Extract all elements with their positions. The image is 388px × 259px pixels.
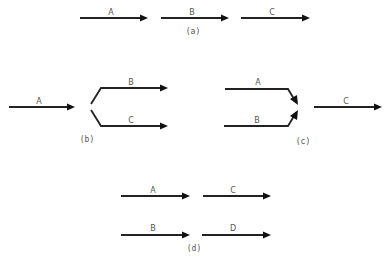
label-a-C: C bbox=[269, 8, 275, 17]
label-d-B: B bbox=[150, 224, 156, 233]
label-c-B: B bbox=[254, 116, 260, 125]
arrow-d-D: D bbox=[202, 224, 271, 239]
panel-a: A B C (a) bbox=[80, 8, 310, 36]
label-a-B: B bbox=[189, 8, 195, 17]
arrow-d-A: A bbox=[121, 186, 190, 200]
label-a-A: A bbox=[108, 8, 114, 17]
label-c-A: A bbox=[255, 78, 261, 87]
arrow-a-A: A bbox=[80, 8, 148, 22]
arrow-d-B: B bbox=[121, 224, 190, 239]
label-c-C: C bbox=[343, 97, 349, 106]
label-d-A: A bbox=[150, 186, 156, 195]
caption-b: (b) bbox=[80, 135, 94, 144]
caption-a: (a) bbox=[186, 27, 200, 36]
arrow-a-B: B bbox=[161, 8, 229, 22]
arrow-c-A: A bbox=[225, 78, 298, 105]
label-d-D: D bbox=[230, 224, 236, 233]
arrow-c-C: C bbox=[314, 97, 382, 111]
arrow-b-B: B bbox=[91, 78, 168, 104]
label-b-B: B bbox=[128, 78, 134, 87]
label-d-C: C bbox=[230, 186, 236, 195]
caption-c: (c) bbox=[296, 137, 310, 146]
caption-d: (d) bbox=[187, 244, 201, 253]
arrow-b-C: C bbox=[91, 110, 168, 130]
panel-b: A B C (b) bbox=[9, 78, 168, 144]
panel-c: A B C (c) bbox=[224, 78, 382, 146]
label-b-C: C bbox=[128, 116, 134, 125]
arrow-d-C: C bbox=[203, 186, 271, 200]
panel-d: A C B D (d) bbox=[121, 186, 271, 253]
arrow-b-A: A bbox=[9, 97, 75, 111]
arrow-a-C: C bbox=[241, 8, 310, 22]
arrow-c-B: B bbox=[224, 110, 298, 126]
reaction-diagram: A B C (a) A B C (b) bbox=[0, 0, 388, 259]
label-b-A: A bbox=[36, 97, 42, 106]
